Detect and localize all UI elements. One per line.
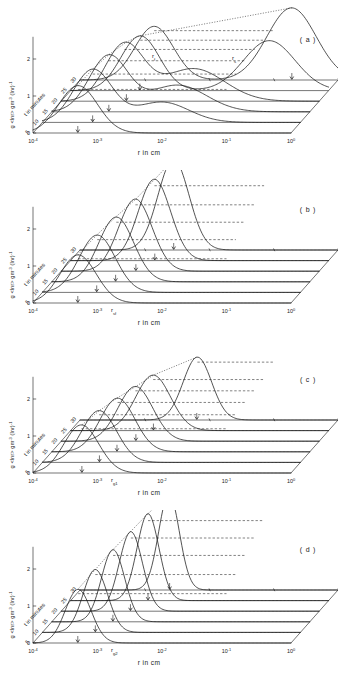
x-tick-label: 100 — [287, 477, 296, 485]
x-axis: 10-410-310-210-1100 — [28, 137, 296, 145]
x-tick-label: 100 — [287, 137, 296, 145]
data-curves — [33, 8, 338, 133]
x-tick-label: 10-2 — [157, 477, 166, 485]
series-curve — [42, 411, 300, 463]
y-tick-label: 2 — [27, 396, 30, 402]
figure-root: 012g <lnr> gm-3 (lnr)-151015202530t in m… — [0, 0, 338, 680]
x-tick-label: 10-1 — [222, 137, 231, 145]
data-curves — [33, 170, 338, 303]
panel-letter: ( c ) — [300, 376, 316, 384]
series-curve — [52, 55, 310, 112]
depth-tick-label: 10 — [31, 288, 39, 296]
x-axis-label: r in cm — [138, 659, 161, 666]
x-tick-label: 10-2 — [157, 307, 166, 315]
peak-arrow-markers — [76, 243, 175, 302]
depth-tick-label: 10 — [31, 628, 39, 636]
x-tick-label: 10-1 — [222, 477, 231, 485]
data-curves — [33, 357, 338, 473]
series-curve — [71, 514, 329, 601]
series-curve — [52, 398, 310, 452]
data-curves — [33, 510, 338, 643]
x-tick-label: 10-1 — [222, 307, 231, 315]
panel-a: 012g <lnr> gm-3 (lnr)-151015202530t in m… — [0, 0, 338, 170]
depth-tick-label: 20 — [50, 607, 58, 615]
x-axis: 10-410-310-210-1100 — [28, 307, 296, 315]
x-tick-label: 10-1 — [222, 647, 231, 655]
plot-area-d: 012g <lnr> gm-3 (lnr)-151015202530t in m… — [0, 510, 338, 680]
depth-tick-label: 20 — [50, 437, 58, 445]
x-tick-label: 10-4 — [28, 647, 38, 655]
y-tick-label: 1 — [27, 93, 30, 99]
y-axis-label: g <lnr> gm-3 (lnr)-1 — [8, 81, 16, 129]
panel-c: 012g <lnr> gm-3 (lnr)-151015202530t in m… — [0, 340, 338, 510]
radius-annotation: rs — [232, 55, 236, 64]
y-axis-label: g <lnr> gm-3 (lnr)-1 — [8, 591, 16, 639]
depth-tick-label: 15 — [41, 617, 49, 625]
series-curve — [61, 532, 319, 612]
series-curve — [61, 386, 319, 441]
plot-area-a: 012g <lnr> gm-3 (lnr)-151015202530t in m… — [0, 0, 338, 170]
x-axis-label: r in cm — [138, 319, 161, 326]
x-tick-label: 10-3 — [93, 647, 102, 655]
series-curve — [71, 375, 329, 430]
radius-annotation: rsf — [111, 307, 117, 316]
radius-annotation: rf — [152, 53, 156, 62]
depth-tick-label: 30 — [69, 416, 77, 424]
depth-tick-label: 10 — [31, 458, 39, 466]
x-tick-label: 100 — [287, 647, 296, 655]
panel-d: 012g <lnr> gm-3 (lnr)-151015202530t in m… — [0, 510, 338, 680]
x-tick-label: 10-4 — [28, 137, 38, 145]
y-tick-label: 1 — [27, 263, 30, 269]
peak-ridge-line — [78, 510, 170, 589]
depth-tick-label: 15 — [41, 107, 49, 115]
radius-annotation: rg2 — [111, 647, 118, 656]
series-curve — [52, 217, 310, 282]
x-axis-label: r in cm — [138, 149, 161, 156]
panel-b: 012g <lnr> gm-3 (lnr)-151015202530t in m… — [0, 170, 338, 340]
depth-tick-label: 30 — [69, 246, 77, 254]
y-tick-label: 2 — [27, 56, 30, 62]
y-axis-label: g <lnr> gm-3 (lnr)-1 — [8, 421, 16, 469]
depth-tick-label: 15 — [41, 447, 49, 455]
depth-tick-label: 20 — [50, 97, 58, 105]
peak-arrow-markers — [76, 583, 171, 642]
series-curve — [80, 8, 338, 80]
series-curve — [33, 425, 291, 473]
depth-tick-label: 10 — [31, 118, 39, 126]
y-tick-label: 2 — [27, 226, 30, 232]
y-tick-label: 1 — [27, 603, 30, 609]
series-curve — [80, 357, 338, 420]
depth-tick-label: 25 — [60, 426, 68, 434]
panel-letter: ( d ) — [300, 546, 316, 554]
panel-letter: ( b ) — [300, 206, 316, 214]
floor-grid — [33, 588, 338, 643]
x-tick-label: 10-2 — [157, 137, 166, 145]
x-tick-label: 10-4 — [28, 307, 38, 315]
y-tick-label: 2 — [27, 566, 30, 572]
x-axis: 10-410-310-210-1100 — [28, 647, 296, 655]
plot-area-c: 012g <lnr> gm-3 (lnr)-151015202530t in m… — [0, 340, 338, 510]
floor-grid — [33, 418, 338, 473]
panel-letter: ( a ) — [300, 36, 316, 44]
depth-tick-label: 25 — [60, 596, 68, 604]
x-tick-label: 100 — [287, 307, 296, 315]
y-axis-label: g <lnr> gm-3 (lnr)-1 — [8, 251, 16, 299]
x-tick-label: 10-2 — [157, 647, 166, 655]
series-curve — [42, 69, 300, 122]
x-axis-label: r in cm — [138, 489, 161, 496]
series-curve — [33, 255, 291, 303]
depth-tick-label: 15 — [41, 277, 49, 285]
x-tick-label: 10-3 — [93, 477, 102, 485]
x-tick-label: 10-3 — [93, 307, 102, 315]
radius-annotation: rg1 — [111, 477, 118, 486]
series-curve — [33, 589, 291, 643]
depth-tick-label: 20 — [50, 267, 58, 275]
x-axis: 10-410-310-210-1100 — [28, 477, 296, 485]
plot-area-b: 012g <lnr> gm-3 (lnr)-151015202530t in m… — [0, 170, 338, 340]
depth-tick-label: 30 — [69, 76, 77, 84]
x-tick-label: 10-3 — [93, 137, 102, 145]
x-tick-label: 10-4 — [28, 477, 38, 485]
y-tick-label: 1 — [27, 433, 30, 439]
series-curve — [71, 179, 329, 260]
